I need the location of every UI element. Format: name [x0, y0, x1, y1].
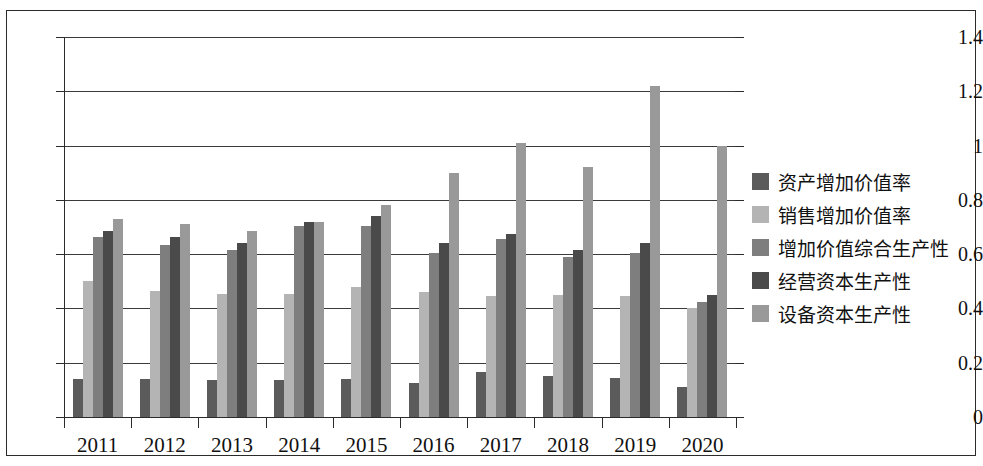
bar	[677, 387, 687, 417]
x-tick-mark	[736, 417, 737, 428]
bar-groups	[64, 37, 736, 417]
x-tick-label: 2019	[602, 430, 669, 462]
bar-group	[131, 37, 198, 417]
chart-figure: 1.41.210.80.60.40.20 2011201220132014201…	[0, 0, 983, 466]
bar	[563, 257, 573, 417]
right-tick-mark	[735, 91, 744, 92]
bar	[620, 296, 630, 417]
bar-group	[400, 37, 467, 417]
x-tick-mark	[602, 417, 603, 428]
legend-item[interactable]: 经营资本生产性	[752, 265, 972, 295]
bar	[543, 376, 553, 417]
x-tick-label: 2016	[400, 430, 467, 462]
legend-item[interactable]: 增加价值综合生产性	[752, 232, 972, 262]
legend-swatch-icon	[752, 305, 769, 322]
x-axis-labels: 2011201220132014201520162017201820192020	[64, 430, 736, 462]
x-tick-mark	[131, 417, 132, 428]
y-tick-mark	[56, 146, 64, 147]
y-tick-label: 0	[931, 407, 983, 427]
bar	[610, 378, 620, 417]
bar-group	[198, 37, 265, 417]
right-tick-mark	[735, 146, 744, 147]
legend-item[interactable]: 销售增加价值率	[752, 199, 972, 229]
bar	[553, 295, 563, 417]
bar	[170, 237, 180, 418]
bar	[284, 294, 294, 418]
bar	[150, 291, 160, 417]
bar-group	[669, 37, 736, 417]
bar	[314, 222, 324, 417]
y-tick-mark	[56, 363, 64, 364]
y-tick-mark	[56, 37, 64, 38]
legend-label: 经营资本生产性	[778, 267, 911, 294]
y-tick-label: 0.2	[931, 353, 983, 373]
right-tick-mark	[735, 308, 744, 309]
x-tick-mark	[534, 417, 535, 428]
bar	[304, 222, 314, 417]
right-tick-mark	[735, 363, 744, 364]
bar	[113, 219, 123, 417]
bar	[361, 226, 371, 417]
legend-item[interactable]: 资产增加价值率	[752, 166, 972, 196]
x-tick-mark	[467, 417, 468, 428]
bar-group	[333, 37, 400, 417]
y-tick-label: 1.4	[931, 27, 983, 47]
bar	[237, 243, 247, 417]
x-tick-label: 2018	[534, 430, 601, 462]
y-tick-mark	[56, 254, 64, 255]
bar	[583, 167, 593, 417]
x-tick-label: 2020	[669, 430, 736, 462]
bar	[717, 146, 727, 417]
x-tick-mark	[333, 417, 334, 428]
legend-label: 资产增加价值率	[778, 168, 911, 195]
bar-group	[467, 37, 534, 417]
legend-swatch-icon	[752, 206, 769, 223]
bar	[486, 296, 496, 417]
bar	[449, 173, 459, 417]
bar	[687, 308, 697, 417]
bar-group	[534, 37, 601, 417]
bar	[573, 250, 583, 417]
x-tick-label: 2013	[198, 430, 265, 462]
x-tick-label: 2015	[333, 430, 400, 462]
y-tick-mark	[56, 308, 64, 309]
bar	[697, 302, 707, 417]
bar	[516, 143, 526, 417]
bar	[247, 231, 257, 417]
y-tick-label: 1	[931, 136, 983, 156]
x-tick-mark	[400, 417, 401, 428]
bar	[227, 250, 237, 417]
right-tick-mark	[735, 254, 744, 255]
x-tick-mark	[64, 417, 65, 428]
bar	[294, 226, 304, 417]
x-tick-mark	[266, 417, 267, 428]
bar	[640, 243, 650, 417]
legend-swatch-icon	[752, 239, 769, 256]
bar	[371, 216, 381, 417]
x-tick-label: 2012	[131, 430, 198, 462]
legend-swatch-icon	[752, 272, 769, 289]
x-tick-mark	[198, 417, 199, 428]
bar	[341, 379, 351, 417]
legend-label: 增加价值综合生产性	[778, 234, 949, 261]
x-tick-label: 2017	[467, 430, 534, 462]
bar	[381, 205, 391, 417]
bar	[217, 294, 227, 418]
legend-label: 设备资本生产性	[778, 300, 911, 327]
right-tick-mark	[735, 200, 744, 201]
x-tick-label: 2014	[266, 430, 333, 462]
bar	[103, 231, 113, 417]
bar	[506, 234, 516, 417]
y-tick-label: 1.2	[931, 81, 983, 101]
bar	[419, 292, 429, 417]
bar	[180, 224, 190, 417]
y-tick-mark	[56, 91, 64, 92]
legend-item[interactable]: 设备资本生产性	[752, 298, 972, 328]
bar	[409, 383, 419, 417]
bar	[476, 372, 486, 417]
bar	[274, 380, 284, 417]
bar	[93, 237, 103, 418]
y-tick-mark	[56, 417, 64, 418]
y-tick-mark	[56, 200, 64, 201]
legend-label: 销售增加价值率	[778, 201, 911, 228]
